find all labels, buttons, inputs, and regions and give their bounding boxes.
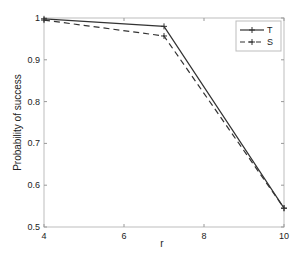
x-tick-label: 4	[41, 231, 46, 241]
line-chart: 468100.50.60.70.80.91rProbability of suc…	[0, 0, 305, 255]
x-tick-label: 6	[121, 231, 126, 241]
y-tick-label: 0.7	[27, 138, 40, 148]
y-tick-label: 0.8	[27, 97, 40, 107]
legend: TS	[236, 21, 281, 51]
legend-label: S	[267, 37, 273, 47]
x-axis-label: r	[160, 238, 164, 249]
y-tick-label: 0.9	[27, 55, 40, 65]
y-tick-label: 1	[35, 13, 40, 23]
y-tick-label: 0.5	[27, 222, 40, 232]
x-tick-label: 10	[279, 231, 289, 241]
y-axis-label: Probability of success	[12, 74, 23, 171]
legend-box	[236, 21, 281, 51]
y-tick-label: 0.6	[27, 180, 40, 190]
legend-label: T	[267, 25, 273, 35]
x-tick-label: 8	[201, 231, 206, 241]
